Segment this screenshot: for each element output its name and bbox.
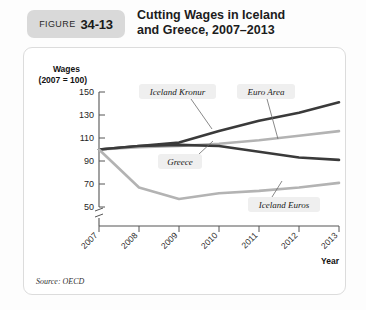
x-tick-2010: 2010 (199, 230, 220, 251)
series-label-iceland-kronur: Iceland Kronur (149, 87, 206, 97)
series-layer (99, 102, 339, 199)
chart-card: Wages (2007 = 100) 150 130 110 90 7 (23, 47, 346, 295)
figure-badge-number: 34-13 (81, 17, 113, 32)
y-axis-break-icon (95, 208, 103, 217)
series-label-euro-area: Euro Area (247, 87, 285, 97)
y-axis-title-line-1: Wages (53, 64, 80, 74)
figure-badge-word: FIGURE (39, 19, 75, 29)
y-tick-90: 90 (84, 156, 94, 166)
page-title: Cutting Wages in Iceland and Greece, 200… (137, 8, 347, 38)
x-tick-2011: 2011 (239, 230, 259, 250)
x-tick-2009: 2009 (159, 230, 180, 251)
figure-header: FIGURE 34-13 Cutting Wages in Iceland an… (27, 10, 347, 44)
series-label-greece: Greece (167, 157, 193, 167)
line-chart: Wages (2007 = 100) 150 130 110 90 7 (24, 48, 345, 294)
y-tick-150: 150 (79, 87, 94, 97)
source-note: Source: OECD (36, 277, 84, 286)
figure-title-line-1: Cutting Wages in Iceland (137, 8, 347, 23)
x-tick-2013: 2013 (319, 230, 340, 251)
leader-line-greece (199, 141, 213, 154)
series-line-iceland-kronur (99, 102, 339, 149)
y-axis-title-line-2: (2007 = 100) (39, 75, 88, 85)
series-label-iceland-euros: Iceland Euros (258, 200, 310, 210)
y-axis-tick-labels: 150 130 110 90 70 50 (79, 87, 94, 212)
y-tick-50: 50 (84, 202, 94, 212)
y-tick-70: 70 (84, 179, 94, 189)
leader-line-iceland-kronur (191, 99, 212, 129)
y-tick-130: 130 (79, 110, 94, 120)
x-tick-2007: 2007 (79, 230, 100, 251)
x-axis-tick-labels: 2007 2008 2009 2010 2011 2012 2013 (79, 230, 340, 251)
y-tick-110: 110 (80, 133, 94, 143)
x-tick-2012: 2012 (279, 230, 300, 251)
figure-container: FIGURE 34-13 Cutting Wages in Iceland an… (0, 0, 366, 310)
series-line-greece (99, 145, 339, 160)
x-axis-ticks (99, 226, 339, 232)
x-axis-title: Year (321, 256, 340, 266)
x-tick-2008: 2008 (119, 230, 140, 251)
figure-title-line-2: and Greece, 2007–2013 (137, 23, 347, 38)
figure-badge: FIGURE 34-13 (27, 10, 125, 38)
